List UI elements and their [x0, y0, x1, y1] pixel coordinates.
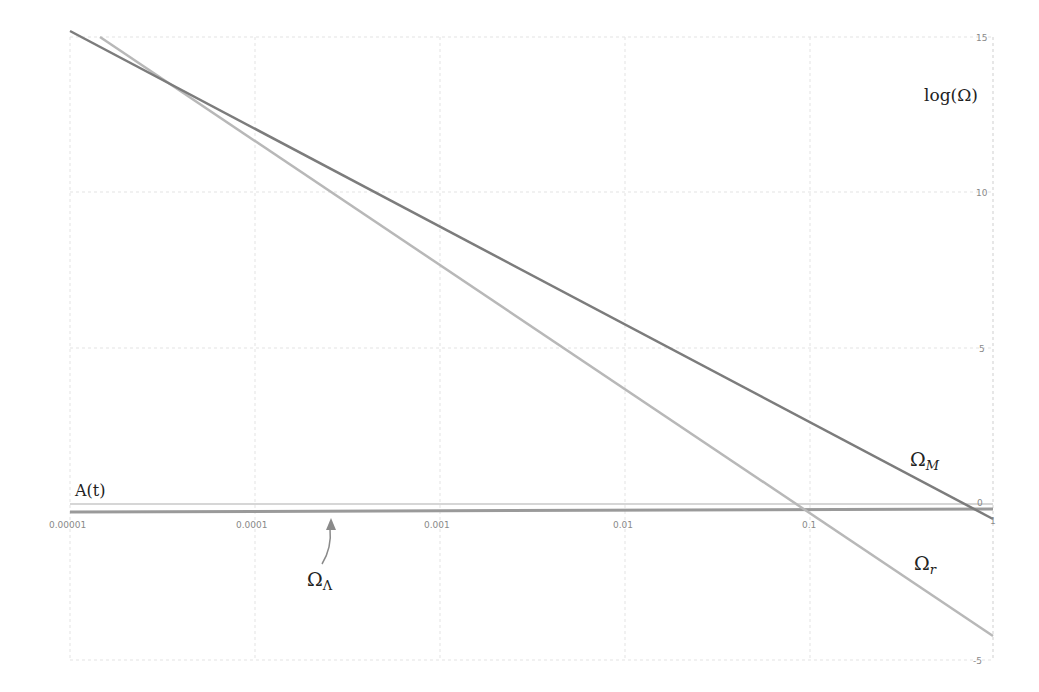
label-omega-m: ΩM — [910, 448, 940, 473]
gridlines — [70, 37, 993, 660]
x-tick-label: 0.00001 — [49, 520, 86, 530]
x-tick-label: 0.01 — [613, 520, 633, 530]
series-omega-r — [100, 37, 993, 636]
series-omega-m — [70, 31, 993, 519]
y-tick-label: 15 — [976, 33, 987, 43]
y-axis-label: log(Ω) — [924, 85, 978, 105]
x-tick-label: 1 — [990, 516, 996, 526]
y-tick-label: 5 — [979, 344, 985, 354]
chart: 0.00001 0.0001 0.001 0.01 0.1 1 15 10 5 … — [0, 0, 1039, 692]
label-omega-lambda: ΩΛ — [307, 568, 333, 593]
label-omega-r: Ωr — [914, 552, 937, 577]
y-tick-label: 10 — [976, 188, 988, 198]
x-tick-label: 0.001 — [424, 520, 450, 530]
x-tick-label: 0.1 — [802, 520, 816, 530]
y-tick-label: -5 — [973, 656, 982, 666]
arrow-icon — [322, 518, 336, 564]
x-tick-label: 0.0001 — [236, 520, 268, 530]
series-omega-lambda — [70, 509, 993, 512]
y-tick-label: 0 — [977, 498, 983, 508]
x-axis-label: A(t) — [74, 481, 105, 500]
